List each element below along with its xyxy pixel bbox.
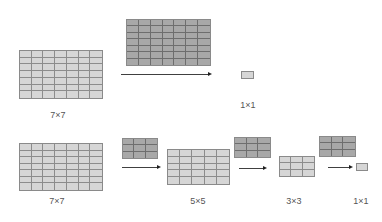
grid-cell (139, 59, 151, 65)
stage1-output-grid-5x5 (167, 149, 230, 185)
grid-cell (168, 177, 180, 184)
grid-cell (67, 91, 79, 98)
grid-cell (55, 177, 67, 184)
stage2-output-grid-3x3 (279, 156, 315, 177)
grid-cell (79, 164, 91, 171)
grid-cell (180, 177, 192, 184)
grid-cell (180, 170, 192, 177)
grid-cell (43, 151, 55, 158)
grid-cell (90, 183, 102, 190)
grid-cell (67, 58, 79, 65)
grid-cell (205, 157, 217, 164)
grid-cell (43, 91, 55, 98)
grid-cell (79, 183, 91, 190)
stage3-output-label: 1×1 (353, 196, 368, 206)
grid-cell (247, 151, 259, 157)
grid-cell (79, 85, 91, 92)
grid-cell (67, 85, 79, 92)
top-kernel-grid-7x7 (126, 19, 211, 66)
grid-cell (20, 164, 32, 171)
grid-cell (205, 177, 217, 184)
grid-cell (20, 51, 32, 58)
grid-cell (43, 78, 55, 85)
grid-cell (67, 71, 79, 78)
grid-cell (20, 71, 32, 78)
grid-cell (43, 58, 55, 65)
grid-cell (32, 71, 44, 78)
stage1-output-label: 5×5 (190, 196, 205, 206)
grid-cell (134, 152, 145, 158)
grid-cell (55, 85, 67, 92)
grid-cell (67, 64, 79, 71)
grid-cell (43, 85, 55, 92)
grid-cell (55, 71, 67, 78)
grid-cell (20, 183, 32, 190)
stage3-output-grid-1x1 (356, 163, 368, 171)
grid-cell (67, 151, 79, 158)
grid-cell (320, 150, 332, 156)
grid-cell (332, 150, 344, 156)
grid-cell (192, 177, 204, 184)
grid-cell (357, 164, 367, 170)
grid-cell (20, 91, 32, 98)
grid-cell (123, 152, 134, 158)
grid-cell (217, 150, 229, 157)
grid-cell (32, 78, 44, 85)
stage2-kernel-grid-3x3 (234, 137, 271, 158)
stage3-kernel-grid-3x3 (319, 136, 356, 157)
grid-cell (205, 170, 217, 177)
grid-cell (258, 151, 270, 157)
grid-cell (55, 51, 67, 58)
bottom-input-grid-7x7 (19, 143, 103, 191)
bottom-input-label: 7×7 (49, 196, 64, 206)
grid-cell (90, 58, 102, 65)
top-input-label: 7×7 (50, 110, 65, 120)
grid-cell (67, 78, 79, 85)
grid-cell (43, 183, 55, 190)
grid-cell (280, 170, 291, 176)
grid-cell (67, 183, 79, 190)
grid-cell (192, 164, 204, 171)
grid-cell (32, 58, 44, 65)
grid-cell (79, 78, 91, 85)
grid-cell (55, 151, 67, 158)
stage1-arrow (122, 167, 159, 168)
grid-cell (151, 59, 163, 65)
top-arrow (121, 74, 210, 75)
grid-cell (32, 85, 44, 92)
grid-cell (55, 164, 67, 171)
grid-cell (43, 71, 55, 78)
grid-cell (168, 164, 180, 171)
grid-cell (217, 164, 229, 171)
grid-cell (127, 59, 139, 65)
grid-cell (217, 170, 229, 177)
grid-cell (180, 150, 192, 157)
grid-cell (32, 164, 44, 171)
grid-cell (32, 51, 44, 58)
grid-cell (198, 59, 210, 65)
grid-cell (55, 64, 67, 71)
grid-cell (163, 59, 175, 65)
grid-cell (43, 51, 55, 58)
grid-cell (180, 164, 192, 171)
top-output-grid-1x1 (241, 71, 254, 79)
stage3-arrow (328, 167, 351, 168)
grid-cell (20, 151, 32, 158)
grid-cell (32, 64, 44, 71)
grid-cell (32, 91, 44, 98)
grid-cell (168, 150, 180, 157)
top-input-grid-7x7 (19, 50, 103, 99)
stage2-output-label: 3×3 (286, 196, 301, 206)
grid-cell (192, 157, 204, 164)
grid-cell (32, 183, 44, 190)
grid-cell (79, 71, 91, 78)
grid-cell (79, 58, 91, 65)
grid-cell (43, 177, 55, 184)
grid-cell (291, 170, 302, 176)
grid-cell (90, 91, 102, 98)
grid-cell (79, 177, 91, 184)
grid-cell (20, 78, 32, 85)
grid-cell (55, 78, 67, 85)
grid-cell (235, 151, 247, 157)
grid-cell (180, 157, 192, 164)
